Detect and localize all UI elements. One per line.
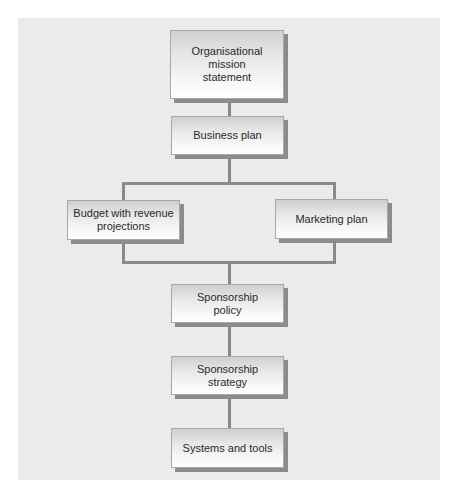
node-label: Marketing plan <box>295 213 367 226</box>
connector-to-marketing <box>333 182 336 199</box>
connector-to-budget <box>122 182 125 200</box>
node-label-line: Budget with revenue <box>73 207 173 220</box>
connector-strategy-systems <box>228 395 231 428</box>
connector-from-budget <box>122 240 125 263</box>
node-label-line: Organisational <box>192 45 263 58</box>
connector-mission-business <box>228 99 231 116</box>
node-sponsorship-policy: Sponsorship policy <box>171 284 284 323</box>
node-label-line: statement <box>192 71 263 84</box>
node-budget-with-revenue-projections: Budget with revenue projections <box>67 200 180 240</box>
node-label-line: policy <box>197 304 258 317</box>
node-business-plan: Business plan <box>171 116 284 155</box>
node-sponsorship-strategy: Sponsorship strategy <box>171 356 284 395</box>
connector-from-marketing <box>333 239 336 263</box>
node-label-line: mission <box>192 58 263 71</box>
connector-top-branch-horizontal <box>122 182 336 185</box>
connector-business-branch-stem <box>228 155 231 183</box>
node-marketing-plan: Marketing plan <box>275 199 388 239</box>
node-systems-and-tools: Systems and tools <box>171 428 284 468</box>
connector-merge-policy <box>228 261 231 284</box>
node-organisational-mission-statement: Organisational mission statement <box>170 30 284 99</box>
node-label: Business plan <box>193 129 262 142</box>
node-label: Systems and tools <box>183 442 273 455</box>
node-label-line: Sponsorship <box>197 291 258 304</box>
node-label-line: projections <box>73 220 173 233</box>
node-label-line: Sponsorship <box>197 363 258 376</box>
node-label-line: strategy <box>197 376 258 389</box>
connector-policy-strategy <box>228 323 231 356</box>
